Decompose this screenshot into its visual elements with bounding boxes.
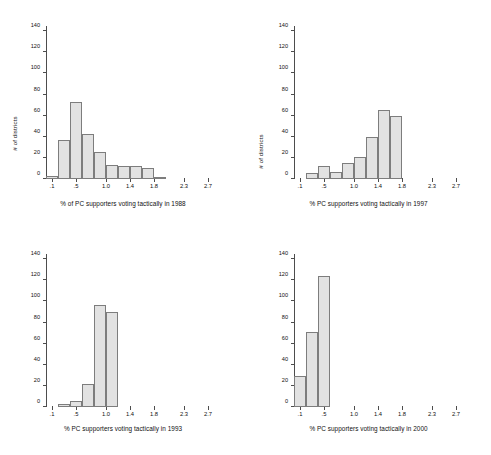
x-tick-label: 2.3 [428, 183, 436, 189]
panel-caption: % PC supporters voting tactically in 199… [0, 425, 246, 432]
panel-caption: % PC supporters voting tactically in 200… [246, 425, 491, 432]
histogram-bar [378, 110, 390, 179]
histogram-bar [70, 102, 82, 179]
plot-area: 020406080100120140.1.51.01.41.82.32.7 [46, 26, 226, 179]
histogram-bar [82, 134, 94, 179]
histogram-bar [82, 384, 94, 407]
y-tick-label: 120 [279, 43, 288, 49]
histogram-bar [294, 376, 306, 407]
y-tick-label: 100 [31, 292, 40, 298]
x-tick-label: 1.4 [126, 411, 134, 417]
y-tick-label: 100 [279, 292, 288, 298]
histogram-bar [142, 168, 154, 179]
x-tick-label: 1.4 [126, 183, 134, 189]
x-tick-label: 2.3 [428, 411, 436, 417]
y-tick-label: 80 [34, 314, 40, 320]
x-tick-label: 2.3 [180, 183, 188, 189]
x-tick-label: 1.8 [398, 411, 406, 417]
plot-area: 020406080100120140.1.51.01.41.82.32.7 [46, 254, 226, 407]
x-tick-label: .5 [74, 411, 79, 417]
y-tick-label: 60 [282, 335, 288, 341]
y-tick-label: 100 [31, 64, 40, 70]
x-tick-label: 1.8 [398, 183, 406, 189]
x-tick-label: .1 [50, 183, 55, 189]
bar-series [294, 254, 474, 407]
x-tick-label: .5 [74, 183, 79, 189]
x-tick-label: 2.7 [204, 183, 212, 189]
bar-series [46, 254, 226, 407]
y-tick-label: 20 [34, 377, 40, 383]
histogram-bar [330, 172, 342, 179]
y-tick-label: 80 [34, 86, 40, 92]
histogram-bar [46, 176, 58, 179]
y-axis-title: # of districts [11, 94, 18, 174]
y-tick-label: 20 [282, 377, 288, 383]
y-tick-label: 120 [279, 271, 288, 277]
x-tick-label: 2.7 [204, 411, 212, 417]
y-tick-label: 0 [37, 398, 40, 404]
y-tick-label: 0 [285, 398, 288, 404]
y-tick-label: 120 [31, 43, 40, 49]
panel-caption: % of PC supporters voting tactically in … [0, 200, 246, 207]
x-tick-label: 1.8 [150, 183, 158, 189]
y-tick-label: 40 [34, 356, 40, 362]
histogram-bar [94, 152, 106, 179]
histogram-bar [366, 137, 378, 179]
y-tick-label: 0 [37, 170, 40, 176]
plot-area: 020406080100120140.1.51.01.41.82.32.7 [294, 26, 474, 179]
x-tick-label: .1 [298, 411, 303, 417]
y-axis-title: # of districts [257, 112, 264, 192]
histogram-figure-grid: # of districts 020406080100120140.1.51.0… [0, 0, 491, 455]
histogram-bar [130, 166, 142, 179]
x-tick-label: 1.0 [102, 183, 110, 189]
y-tick-label: 80 [282, 86, 288, 92]
y-tick-label: 20 [34, 149, 40, 155]
y-tick-label: 140 [279, 22, 288, 28]
y-tick-label: 0 [285, 170, 288, 176]
histogram-bar [106, 165, 118, 179]
x-tick-label: .5 [322, 411, 327, 417]
panel-caption: % PC supporters voting tactically in 199… [246, 200, 491, 207]
histogram-bar [154, 177, 166, 179]
x-tick-label: 1.8 [150, 411, 158, 417]
y-tick-label: 100 [279, 64, 288, 70]
histogram-panel-1997: # of districts 020406080100120140.1.51.0… [246, 0, 491, 228]
x-tick-label: .5 [322, 183, 327, 189]
y-tick-label: 60 [34, 107, 40, 113]
x-tick-label: 1.0 [102, 411, 110, 417]
x-tick-label: 2.7 [452, 183, 460, 189]
histogram-bar [58, 140, 70, 179]
y-tick-label: 20 [282, 149, 288, 155]
y-tick-label: 140 [31, 250, 40, 256]
histogram-bar [306, 173, 318, 179]
y-tick-label: 140 [31, 22, 40, 28]
histogram-bar [342, 163, 354, 179]
histogram-bar [94, 305, 106, 407]
histogram-bar [390, 116, 402, 179]
x-tick-label: 1.0 [350, 411, 358, 417]
bar-series [294, 26, 474, 179]
x-tick-label: 2.3 [180, 411, 188, 417]
y-tick-label: 40 [282, 128, 288, 134]
y-tick-label: 120 [31, 271, 40, 277]
y-tick-label: 60 [282, 107, 288, 113]
histogram-bar [106, 312, 118, 407]
x-tick-label: .1 [50, 411, 55, 417]
y-tick-label: 140 [279, 250, 288, 256]
y-tick-label: 40 [282, 356, 288, 362]
histogram-panel-1988: # of districts 020406080100120140.1.51.0… [0, 0, 246, 228]
plot-area: 020406080100120140.1.51.01.41.82.32.7 [294, 254, 474, 407]
histogram-bar [118, 166, 130, 179]
x-tick-label: 1.0 [350, 183, 358, 189]
histogram-bar [58, 404, 70, 407]
x-tick-label: 1.4 [374, 411, 382, 417]
histogram-bar [354, 157, 366, 179]
x-tick-label: 1.4 [374, 183, 382, 189]
bar-series [46, 26, 226, 179]
x-tick-label: 2.7 [452, 411, 460, 417]
histogram-bar [318, 276, 330, 407]
histogram-bar [306, 332, 318, 407]
y-tick-label: 80 [282, 314, 288, 320]
histogram-bar [318, 166, 330, 179]
y-tick-label: 60 [34, 335, 40, 341]
